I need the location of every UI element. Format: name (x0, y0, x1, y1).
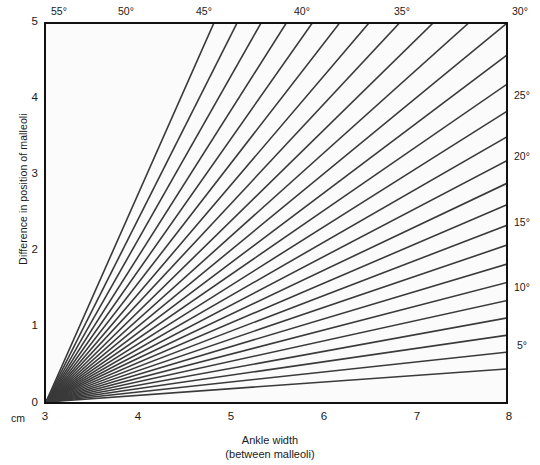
right-angle-label-20: 20° (514, 150, 530, 162)
x-tick-8: 8 (494, 410, 524, 422)
x-tick-3: 3 (30, 410, 60, 422)
x-axis-title: Ankle width (between malleoli) (0, 433, 540, 461)
ray-line (46, 283, 506, 402)
y-tick-5: 5 (14, 15, 38, 27)
top-angle-label-40: 40° (294, 5, 310, 17)
top-angle-label-45: 45° (196, 5, 212, 17)
nomogram-chart: Difference in position of malleoli 5 4 3… (0, 0, 540, 465)
y-tick-4: 4 (14, 91, 38, 103)
top-angle-label-35: 35° (394, 5, 410, 17)
y-axis-title: Difference in position of malleoli (17, 74, 29, 304)
ray-line (46, 56, 506, 402)
right-angle-label-10: 10° (514, 281, 530, 293)
ray-lines-svg (46, 24, 506, 402)
x-tick-7: 7 (402, 410, 432, 422)
right-angle-label-15: 15° (514, 216, 530, 228)
x-tick-4: 4 (123, 410, 153, 422)
top-angle-label-55: 55° (51, 5, 67, 17)
right-angle-label-25: 25° (514, 89, 530, 101)
ray-line (46, 24, 213, 402)
y-tick-2: 2 (14, 243, 38, 255)
x-unit-label: cm (11, 412, 25, 424)
ray-line (46, 369, 506, 402)
y-tick-1: 1 (14, 319, 38, 331)
top-angle-label-30: 30° (512, 5, 528, 17)
ray-line (46, 264, 506, 402)
y-tick-3: 3 (14, 167, 38, 179)
x-tick-6: 6 (309, 410, 339, 422)
plot-area (44, 22, 508, 404)
x-axis-title-line2: (between malleoli) (0, 447, 540, 461)
x-axis-title-line1: Ankle width (242, 434, 298, 446)
x-tick-5: 5 (216, 410, 246, 422)
ray-line (46, 301, 506, 402)
right-angle-label-5: 5° (517, 339, 527, 351)
y-tick-0: 0 (14, 396, 38, 408)
top-angle-label-50: 50° (118, 5, 134, 17)
ray-line (46, 24, 468, 402)
